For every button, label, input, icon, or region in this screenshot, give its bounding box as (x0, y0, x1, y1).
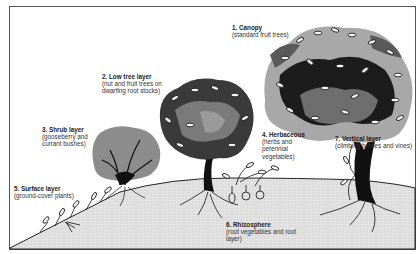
label-desc: (gooseberry and (42, 133, 88, 140)
label-desc: (nut and fruit trees on (102, 80, 162, 87)
label-desc: layer) (226, 235, 296, 242)
label-herbaceous: 4. Herbaceous (herbs and perennial veget… (262, 131, 305, 160)
label-title: 6. Rhizosphere (226, 221, 296, 228)
label-desc: (herbs and (262, 138, 305, 145)
label-desc: currant bushes) (42, 140, 88, 147)
label-low-tree: 2. Low tree layer (nut and fruit trees o… (102, 73, 162, 95)
label-desc: vegetables) (262, 153, 305, 160)
label-title: 5. Surface layer (14, 185, 74, 192)
label-title: 4. Herbaceous (262, 131, 305, 138)
label-desc: perennial (262, 145, 305, 152)
label-title: 7. Vertical layer (335, 135, 412, 142)
label-title: 3. Shrub layer (42, 126, 88, 133)
label-title: 2. Low tree layer (102, 73, 162, 80)
label-desc: (climbing berries and vines) (335, 142, 412, 149)
label-desc: dwarfing root stocks) (102, 87, 162, 94)
label-title: 1. Canopy (232, 24, 289, 31)
label-desc: (root vegetables and root (226, 228, 296, 235)
label-vertical: 7. Vertical layer (climbing berries and … (335, 135, 412, 149)
label-surface: 5. Surface layer (ground-cover plants) (14, 185, 74, 199)
label-shrub: 3. Shrub layer (gooseberry and currant b… (42, 126, 88, 148)
label-desc: (ground-cover plants) (14, 192, 74, 199)
label-canopy: 1. Canopy (standard fruit trees) (232, 24, 289, 38)
label-rhizosphere: 6. Rhizosphere (root vegetables and root… (226, 221, 296, 243)
label-desc: (standard fruit trees) (232, 31, 289, 38)
